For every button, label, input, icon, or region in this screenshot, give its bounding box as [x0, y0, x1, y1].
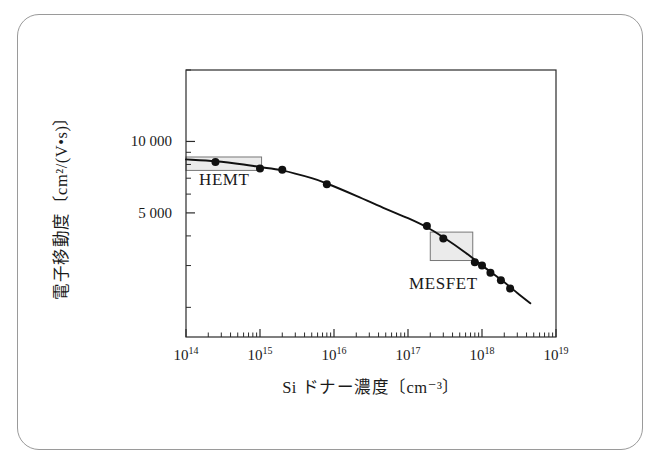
data-point-marker: [506, 285, 514, 293]
data-point-marker: [323, 180, 331, 188]
x-axis-title: Si ドナー濃度〔cm⁻³〕: [282, 374, 460, 398]
data-point-marker: [497, 276, 505, 284]
figure-root: 10 000 5 000 1014 1015 1016 1017 1018 10…: [0, 0, 662, 466]
data-point-marker: [278, 166, 286, 174]
annotation-label-hemt: HEMT: [199, 170, 250, 190]
plot-frame: [186, 70, 556, 337]
x-tick-label-1e14: 1014: [174, 348, 199, 363]
data-point-marker: [256, 164, 264, 172]
data-point-marker: [478, 262, 486, 270]
x-tick-label-1e19: 1019: [544, 348, 569, 363]
annotation-box-mesfet: [430, 232, 472, 260]
data-point-marker: [211, 158, 219, 166]
annotation-label-mesfet: MESFET: [409, 274, 478, 294]
data-point-marker: [423, 222, 431, 230]
data-point-marker: [471, 258, 479, 266]
x-tick-label-1e18: 1018: [470, 348, 495, 363]
y-axis-title: 電子移動度〔cm²/(V•s)〕: [48, 108, 72, 300]
y-tick-label-5000: 5 000: [0, 205, 172, 220]
y-tick-label-10000: 10 000: [0, 134, 172, 149]
data-point-marker: [439, 235, 447, 243]
x-tick-label-1e17: 1017: [396, 348, 421, 363]
data-point-marker: [486, 269, 494, 277]
annotation-box-hemt: [186, 157, 262, 170]
x-tick-label-1e15: 1015: [248, 348, 273, 363]
x-tick-label-1e16: 1016: [322, 348, 347, 363]
